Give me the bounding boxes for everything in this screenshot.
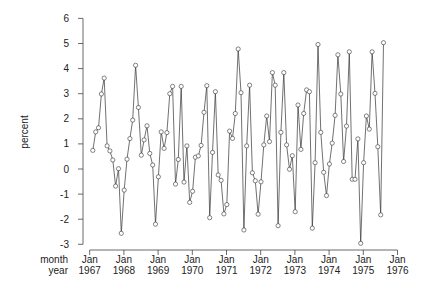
data-point (108, 149, 112, 153)
data-point (142, 138, 146, 142)
data-point (256, 212, 260, 216)
data-point (316, 42, 320, 46)
data-point (134, 63, 138, 67)
data-point (290, 154, 294, 158)
x-tick-year: 1969 (147, 265, 170, 276)
y-tick-label: 5 (63, 38, 69, 49)
data-point (273, 83, 277, 87)
x-tick-month: Jan (287, 254, 303, 265)
data-point (111, 158, 115, 162)
data-point (228, 129, 232, 133)
x-tick-month: Jan (218, 254, 234, 265)
data-point (131, 118, 135, 122)
data-point (282, 71, 286, 75)
x-tick-month: Jan (150, 254, 166, 265)
data-point (336, 53, 340, 57)
y-tick-label: 0 (63, 164, 69, 175)
data-point (353, 177, 357, 181)
data-point (245, 144, 249, 148)
y-tick-label: -1 (60, 189, 69, 200)
data-point (333, 113, 337, 117)
x-tick-month: Jan (355, 254, 371, 265)
x-tick-year: 1975 (352, 265, 375, 276)
data-point (248, 83, 252, 87)
data-point (91, 148, 95, 152)
data-point (128, 137, 132, 141)
data-point (293, 210, 297, 214)
data-point (279, 130, 283, 134)
data-point (262, 143, 266, 147)
y-axis-title: percent (19, 115, 30, 149)
data-point (151, 163, 155, 167)
data-point (344, 124, 348, 128)
y-tick-label: -3 (60, 239, 69, 250)
data-point (216, 173, 220, 177)
data-point (379, 213, 383, 217)
data-point (159, 130, 163, 134)
x-axis: Jan1967Jan1968Jan1969Jan1970Jan1971Jan19… (79, 250, 409, 276)
time-series-chart: -3-2-10123456 Jan1967Jan1968Jan1969Jan19… (0, 0, 428, 287)
y-tick-label: 1 (63, 138, 69, 149)
data-point (145, 124, 149, 128)
data-point (319, 130, 323, 134)
data-point (213, 90, 217, 94)
x-tick-month: Jan (389, 254, 405, 265)
y-tick-label: 6 (63, 13, 69, 24)
x-tick-year: 1968 (113, 265, 136, 276)
data-point (299, 147, 303, 151)
data-point (239, 91, 243, 95)
data-point (219, 178, 223, 182)
data-point (313, 161, 317, 165)
data-point (276, 224, 280, 228)
data-point (191, 189, 195, 193)
data-point (364, 114, 368, 118)
y-axis: -3-2-10123456 (60, 13, 83, 250)
data-point (105, 144, 109, 148)
data-point (296, 103, 300, 107)
data-point (162, 146, 166, 150)
y-tick-label: -2 (60, 214, 69, 225)
data-point (225, 203, 229, 207)
data-point (242, 228, 246, 232)
data-point (222, 212, 226, 216)
data-point (205, 84, 209, 88)
data-point (327, 162, 331, 166)
x-tick-year: 1970 (181, 265, 204, 276)
data-point (339, 92, 343, 96)
y-tick-label: 4 (63, 63, 69, 74)
data-point (322, 170, 326, 174)
data-point (233, 111, 237, 115)
data-point (202, 110, 206, 114)
data-point (230, 136, 234, 140)
data-point (114, 184, 118, 188)
data-point (125, 157, 129, 161)
data-point (139, 153, 143, 157)
data-point (270, 71, 274, 75)
data-point (173, 182, 177, 186)
data-point (253, 179, 257, 183)
data-point (188, 200, 192, 204)
data-point (116, 167, 120, 171)
data-point (250, 171, 254, 175)
y-tick-label: 2 (63, 113, 69, 124)
data-point (310, 226, 314, 230)
data-point (156, 175, 160, 179)
data-series (91, 41, 386, 246)
data-point (373, 91, 377, 95)
data-point (94, 130, 98, 134)
data-point (265, 114, 269, 118)
data-point (302, 111, 306, 115)
y-tick-label: 3 (63, 88, 69, 99)
data-point (102, 76, 106, 80)
data-point (179, 84, 183, 88)
data-point (267, 140, 271, 144)
data-point (210, 150, 214, 154)
data-point (176, 157, 180, 161)
data-point (287, 167, 291, 171)
data-point (381, 41, 385, 45)
data-point (208, 216, 212, 220)
data-point (168, 92, 172, 96)
data-point (307, 90, 311, 94)
data-point (153, 222, 157, 226)
series-line (93, 43, 384, 244)
